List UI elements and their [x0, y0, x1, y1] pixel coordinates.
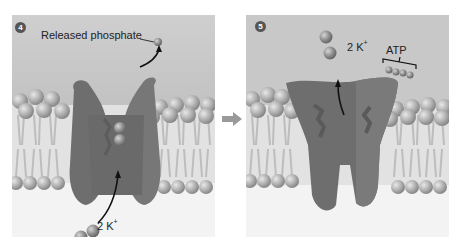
potassium-ion	[114, 134, 126, 146]
atp-label: ATP	[386, 44, 407, 56]
potassium-ion	[114, 122, 126, 134]
panel-step-4: 4 Released phosphate 2 K+	[12, 15, 215, 237]
pump-diagram-released-phosphate	[12, 15, 215, 237]
released-phosphate-label: Released phosphate	[41, 29, 142, 41]
transition-arrow-icon	[222, 112, 242, 126]
potassium-ion	[324, 47, 337, 60]
panel-step-5: 5 2 K+ ATP	[246, 15, 449, 237]
potassium-label: 2 K+	[97, 220, 118, 232]
potassium-label: 2 K+	[347, 41, 368, 53]
step-badge: 5	[255, 21, 266, 32]
potassium-ion	[320, 31, 333, 44]
phosphate-icon	[154, 38, 162, 46]
step-badge: 4	[15, 22, 26, 33]
